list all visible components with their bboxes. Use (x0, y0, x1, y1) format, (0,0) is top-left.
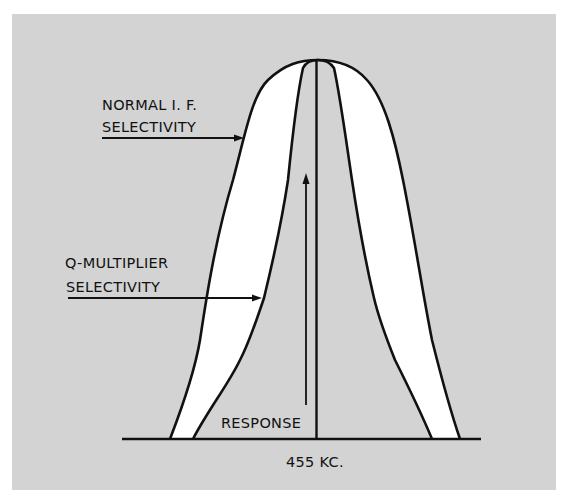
response-label: RESPONSE (221, 415, 301, 431)
selectivity-diagram: NORMAL I. F. SELECTIVITY Q-MULTIPLIER SE… (0, 0, 563, 502)
q-multiplier-label-line1: Q-MULTIPLIER (65, 255, 168, 271)
center-frequency-label: 455 KC. (286, 454, 344, 470)
response-arrow-head-icon (303, 173, 310, 184)
normal-if-label-line2: SELECTIVITY (102, 119, 196, 135)
normal-if-label-line1: NORMAL I. F. (102, 97, 197, 113)
q-multiplier-label-line2: SELECTIVITY (66, 279, 160, 295)
